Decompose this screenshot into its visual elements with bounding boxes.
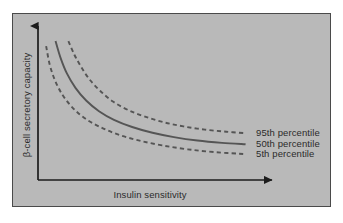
- legend-label-95th-percentile: 95th percentile: [256, 127, 320, 138]
- chart-svg: β-cell secretory capacity Insulin sensit…: [0, 0, 343, 223]
- curve-95th-percentile: [68, 41, 245, 133]
- legend-label-5th-percentile: 5th percentile: [256, 148, 314, 159]
- curve-50th-percentile: [56, 41, 246, 144]
- x-axis-label: Insulin sensitivity: [113, 189, 186, 200]
- curve-5th-percentile: [46, 46, 245, 154]
- percentile-curves: [46, 41, 245, 154]
- chart-legend: 95th percentile50th percentile5th percen…: [256, 127, 320, 159]
- y-axis-label: β-cell secretory capacity: [21, 53, 32, 158]
- figure-container: β-cell secretory capacity Insulin sensit…: [0, 0, 343, 223]
